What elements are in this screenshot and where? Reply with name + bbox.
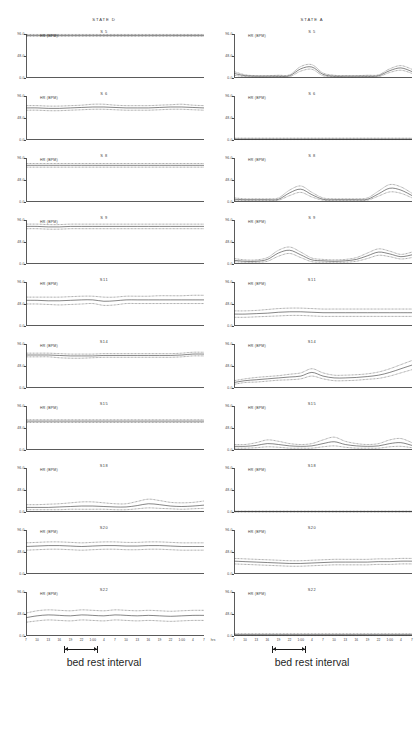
curve-lower [26,303,204,305]
curve-group [234,344,412,388]
interval-caption: bed rest interval [208,656,416,668]
x-tick-label: 7 [25,638,27,642]
interval-arrow-right [94,647,97,651]
curve-upper [26,542,204,543]
curve-group [234,220,412,264]
interval-bar [64,649,98,650]
curve-group [26,530,204,574]
plot-area: 0.048.096.0 [26,530,204,574]
x-tick-label: 7 [233,638,235,642]
curve-mean [26,300,204,302]
x-axis-tick-labels: 710131619221:004710131619221:0047hrs [234,638,412,644]
x-tick-label: 7 [411,638,413,642]
y-tick-mark [232,326,234,327]
x-tick-label: 10 [124,638,128,642]
curve-group [26,282,204,326]
curve-group [26,158,204,202]
curve-lower [26,620,204,622]
curve-group [234,530,412,574]
x-tick-label: 16 [266,638,270,642]
plot-area: 0.048.096.0 [26,344,204,388]
column-header-left: STATE D [0,17,208,22]
column-header-right: STATE A [208,17,416,22]
plot-area: 0.048.096.0 [234,406,412,450]
x-tick-label: 16 [147,638,151,642]
x-tick-label: 7 [322,638,324,642]
curve-mean [234,561,412,563]
curve-mean [234,442,412,447]
y-tick-mark [24,78,26,79]
curve-group [234,96,412,140]
x-tick-label: 7 [114,638,116,642]
curve-group [26,96,204,140]
curve-upper [26,352,204,354]
plot-area: 0.048.096.0 [26,158,204,202]
curve-lower [26,508,204,510]
curve-group [234,158,412,202]
x-tick-label: 19 [366,638,370,642]
x-tick-label: 19 [69,638,73,642]
curve-group [234,468,412,512]
x-tick-label: 10 [35,638,39,642]
y-tick-mark [232,512,234,513]
bed-rest-interval-marker [64,645,98,654]
y-tick-mark [24,388,26,389]
column-state-d: STATE D S 5HR (BPM)0.048.096.0S 6HR (BPM… [0,0,208,731]
interval-bar [272,649,306,650]
plot-area: 0.048.096.0 [234,220,412,264]
curve-group [234,282,412,326]
x-tick-label: 4 [400,638,402,642]
plot-area: 0.048.096.0 [26,406,204,450]
curve-group [26,34,204,78]
plot-area: 0.048.096.0 [26,282,204,326]
y-tick-mark [232,264,234,265]
x-tick-label: 1:00 [178,638,185,642]
y-tick-mark [24,264,26,265]
curve-lower [234,315,412,317]
bed-rest-interval-marker [272,645,306,654]
curve-upper [234,308,412,311]
curve-upper [26,499,204,505]
x-tick-label: 13 [135,638,139,642]
y-tick-mark [232,450,234,451]
curve-upper [26,610,204,613]
curve-upper [234,184,412,198]
curve-mean [26,615,204,618]
curve-upper [234,558,412,560]
x-tick-label: 10 [332,638,336,642]
curve-lower [234,564,412,566]
curve-group [26,468,204,512]
curve-upper [26,224,204,225]
y-tick-mark [24,326,26,327]
x-tick-label: 19 [277,638,281,642]
x-tick-label: 13 [46,638,50,642]
curve-mean [234,312,412,314]
y-tick-mark [24,140,26,141]
y-tick-mark [24,202,26,203]
curve-upper [234,247,412,260]
curve-lower [234,446,412,448]
plot-area: 0.048.096.0 [26,34,204,78]
plot-area: 0.048.096.0 [234,468,412,512]
x-tick-label: 19 [158,638,162,642]
x-tick-label: 7 [203,638,205,642]
x-tick-label: 1:00 [297,638,304,642]
y-tick-mark [232,78,234,79]
curve-group [26,220,204,264]
x-axis-tick-labels: 710131619221:004710131619221:0047hrs [26,638,204,644]
curve-lower [26,229,204,230]
x-tick-label: 16 [58,638,62,642]
curve-lower [26,549,204,550]
curve-mean [26,546,204,547]
x-tick-label: 13 [343,638,347,642]
interval-arrow-left [273,647,276,651]
interval-arrow-left [65,647,68,651]
figure-root: STATE D S 5HR (BPM)0.048.096.0S 6HR (BPM… [0,0,416,731]
x-tick-label: 22 [169,638,173,642]
curve-lower [26,356,204,358]
y-tick-mark [24,512,26,513]
curve-group [26,344,204,388]
x-tick-label: 1:00 [89,638,96,642]
curve-mean [234,250,412,261]
plot-area: 0.048.096.0 [26,468,204,512]
